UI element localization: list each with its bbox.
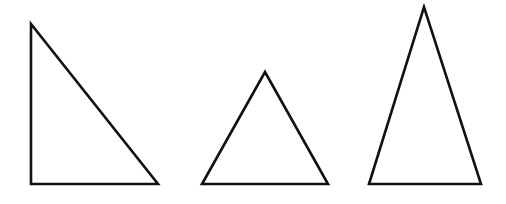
- isosceles-triangle: [369, 7, 481, 184]
- equilateral-triangle: [202, 72, 328, 184]
- triangles-diagram: [0, 0, 506, 204]
- figure-canvas: [0, 0, 506, 204]
- right-triangle: [31, 24, 158, 184]
